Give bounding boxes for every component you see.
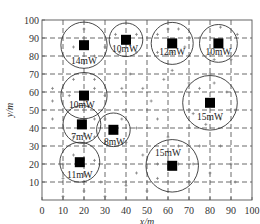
x-tick-label: 70 xyxy=(184,205,194,216)
sensor-plus-icon xyxy=(62,163,65,166)
sensor-plus-icon xyxy=(177,28,180,31)
node-power-label: 14mW xyxy=(71,56,97,66)
y-tick-label: 70 xyxy=(29,69,39,80)
sensor-plus-icon xyxy=(93,78,96,81)
sensor-plus-icon xyxy=(104,118,107,121)
sensor-plus-icon xyxy=(156,163,159,166)
sensor-plus-icon xyxy=(156,33,159,36)
node-power-label: 10mW xyxy=(205,47,231,57)
y-tick-label: 90 xyxy=(29,33,39,44)
sensor-plus-icon xyxy=(68,94,71,97)
sensor-plus-icon xyxy=(204,123,207,126)
sensor-plus-icon xyxy=(120,118,123,121)
x-tick-label: 90 xyxy=(226,205,236,216)
sensor-plus-icon xyxy=(114,33,117,36)
y-tick-label: 50 xyxy=(29,105,39,116)
node-power-label: 7mW xyxy=(71,132,92,142)
x-axis-title: x/m xyxy=(139,216,154,224)
sensor-plus-icon xyxy=(93,159,96,162)
sensor-plus-icon xyxy=(99,181,102,184)
anchor-node-square xyxy=(108,125,118,135)
sensor-plus-icon xyxy=(167,28,170,31)
sensor-plus-icon xyxy=(219,26,222,29)
node-power-label: 8mW xyxy=(104,137,125,147)
sensor-plus-icon xyxy=(51,100,54,103)
x-tick-label: 100 xyxy=(245,205,260,216)
sensor-plus-icon xyxy=(129,73,132,76)
anchor-node-square xyxy=(77,119,87,129)
x-tick-label: 60 xyxy=(163,205,173,216)
y-tick-label: 60 xyxy=(29,87,39,98)
sensor-plus-icon xyxy=(209,73,212,76)
sensor-plus-icon xyxy=(209,172,212,175)
anchor-node-square xyxy=(75,157,85,167)
sensor-plus-icon xyxy=(135,172,138,175)
sensor-plus-icon xyxy=(104,46,107,49)
sensor-plus-icon xyxy=(125,184,128,187)
anchor-node-square xyxy=(79,40,89,50)
x-tick-label: 10 xyxy=(58,205,68,216)
sensor-plus-icon xyxy=(104,94,107,97)
sensor-plus-icon xyxy=(62,177,65,180)
sensor-plus-icon xyxy=(51,87,54,90)
sensor-plus-icon xyxy=(162,78,165,81)
anchor-node-square xyxy=(167,161,177,171)
anchor-nodes: 14mW10mW12mW10mW15mW10mW7mW8mW11mW15mW xyxy=(67,35,231,180)
node-power-label: 15mW xyxy=(197,112,223,122)
node-power-label: 10mW xyxy=(112,44,138,54)
sensor-plus-icon xyxy=(93,87,96,90)
x-tick-label: 30 xyxy=(100,205,110,216)
sensor-plus-icon xyxy=(230,163,233,166)
sensor-plus-icon xyxy=(213,82,216,85)
sensor-plus-icon xyxy=(234,181,237,184)
sensor-plus-icon xyxy=(150,100,153,103)
y-tick-label: 80 xyxy=(29,51,39,62)
sensor-plus-icon xyxy=(135,127,138,130)
x-tick-label: 50 xyxy=(142,205,152,216)
sensor-plus-icon xyxy=(72,46,75,49)
x-tick-label: 40 xyxy=(121,205,131,216)
anchor-node-square xyxy=(205,98,215,108)
sensor-plus-icon xyxy=(83,145,86,148)
sensor-plus-icon xyxy=(83,28,86,31)
node-power-label: 12mW xyxy=(159,47,185,57)
sensor-plus-icon xyxy=(93,118,96,121)
sensor-plus-icon xyxy=(72,78,75,81)
sensor-plus-icon xyxy=(198,87,201,90)
scatter-chart: 14mW10mW12mW10mW15mW10mW7mW8mW11mW15mW 0… xyxy=(0,0,260,224)
sensor-plus-icon xyxy=(156,118,159,121)
sensor-plus-icon xyxy=(177,145,180,148)
x-tick-label: 0 xyxy=(40,205,45,216)
y-tick-label: 30 xyxy=(29,141,39,152)
sensor-plus-icon xyxy=(51,118,54,121)
sensor-plus-icon xyxy=(83,190,86,193)
sensor-plus-icon xyxy=(141,154,144,157)
y-axis-title: y/m xyxy=(4,103,15,118)
sensor-plus-icon xyxy=(171,69,174,72)
sensor-plus-icon xyxy=(213,58,216,61)
sensor-plus-icon xyxy=(188,181,191,184)
node-power-label: 15mW xyxy=(155,148,181,158)
node-power-label: 10mW xyxy=(69,100,95,110)
sensor-plus-icon xyxy=(146,190,149,193)
y-tick-label: 40 xyxy=(29,123,39,134)
sensor-plus-icon xyxy=(62,127,65,130)
sensor-plus-icon xyxy=(167,136,170,139)
sensor-plus-icon xyxy=(72,154,75,157)
y-tick-label: 10 xyxy=(29,177,39,188)
sensor-plus-icon xyxy=(225,91,228,94)
sensor-plus-icon xyxy=(192,163,195,166)
x-tick-label: 80 xyxy=(205,205,215,216)
sensor-plus-icon xyxy=(156,177,159,180)
sensor-plus-icon xyxy=(198,145,201,148)
sensor-plus-icon xyxy=(177,163,180,166)
sensor-plus-icon xyxy=(219,145,222,148)
y-tick-label: 20 xyxy=(29,159,39,170)
node-power-label: 11mW xyxy=(67,170,93,180)
sensor-plus-icon xyxy=(135,33,138,36)
sensor-plus-icon xyxy=(192,112,195,115)
sensor-plus-icon xyxy=(141,87,144,90)
sensor-plus-icon xyxy=(167,181,170,184)
x-tick-label: 20 xyxy=(79,205,89,216)
sensor-plus-icon xyxy=(236,33,239,36)
